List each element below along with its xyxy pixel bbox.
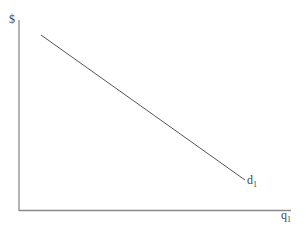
y-axis-label: $ <box>9 12 15 26</box>
curve-label: d1 <box>247 173 257 189</box>
demand-diagram: $ d1 q1 <box>0 0 305 229</box>
demand-curve-d1 <box>41 35 245 180</box>
